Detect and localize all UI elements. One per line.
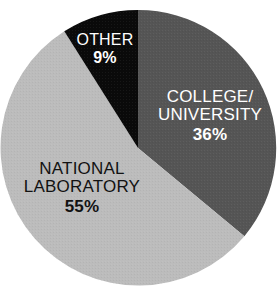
pie-chart: COLLEGE/ UNIVERSITY 36% NATIONAL LABORAT… — [0, 0, 280, 289]
halftone-texture — [0, 10, 276, 286]
pie-chart-svg — [0, 0, 280, 289]
